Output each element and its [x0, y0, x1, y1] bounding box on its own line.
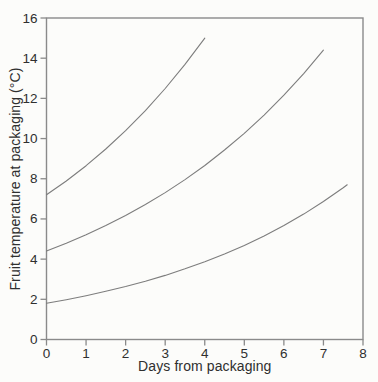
curve-lower-curve — [47, 185, 348, 303]
x-tick-label: 8 — [359, 346, 367, 361]
y-axis-title: Fruit temperature at packaging (°C) — [7, 67, 23, 290]
x-tick-label: 7 — [320, 346, 328, 361]
curve-middle-curve — [47, 50, 324, 251]
figure: 0123456780246810121416 Days from packagi… — [0, 0, 378, 382]
x-axis-title: Days from packaging — [138, 358, 271, 374]
y-tick-label: 14 — [22, 51, 38, 66]
x-tick-label: 6 — [280, 346, 288, 361]
x-tick-label: 1 — [82, 346, 90, 361]
tick-labels-layer: 0123456780246810121416 — [22, 11, 366, 362]
curve-upper-curve — [47, 38, 205, 195]
x-tick-label: 2 — [122, 346, 130, 361]
y-tick-label: 10 — [22, 131, 37, 146]
y-tick-label: 4 — [30, 252, 38, 267]
y-tick-label: 16 — [22, 11, 37, 26]
y-tick-label: 8 — [30, 171, 38, 186]
y-tick-label: 6 — [30, 211, 38, 226]
fruit-temperature-chart: 0123456780246810121416 Days from packagi… — [0, 0, 378, 382]
x-tick-label: 0 — [43, 346, 51, 361]
y-tick-label: 0 — [30, 332, 38, 347]
y-tick-label: 2 — [30, 292, 38, 307]
y-tick-label: 12 — [22, 91, 37, 106]
series-layer — [47, 38, 348, 303]
plot-border — [47, 18, 364, 340]
axes-layer — [41, 18, 364, 346]
